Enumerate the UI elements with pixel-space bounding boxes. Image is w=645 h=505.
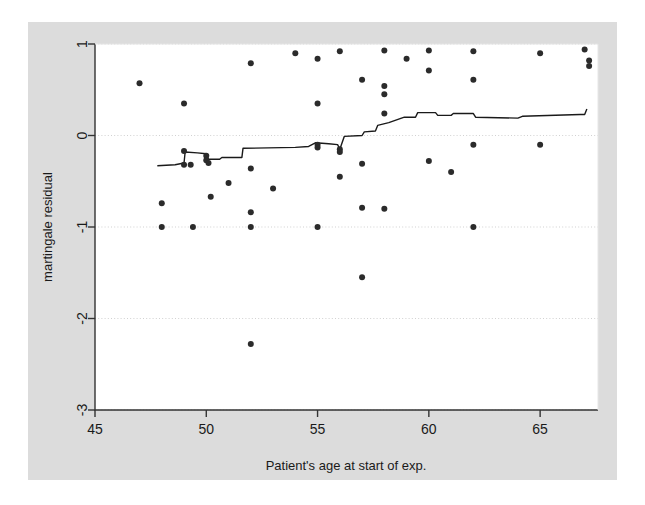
data-point: [426, 47, 432, 53]
data-point: [188, 162, 194, 168]
y-tick-label: -2: [74, 312, 90, 325]
data-point: [448, 169, 454, 175]
data-point: [248, 224, 254, 230]
x-tick-label: 45: [87, 421, 103, 437]
x-tick-label: 60: [421, 421, 437, 437]
data-point: [181, 162, 187, 168]
data-point: [337, 48, 343, 54]
data-point: [159, 224, 165, 230]
data-point: [381, 206, 387, 212]
data-point: [315, 144, 321, 150]
data-point: [470, 48, 476, 54]
data-point: [248, 209, 254, 215]
data-point: [315, 100, 321, 106]
data-point: [381, 83, 387, 89]
data-point: [582, 46, 588, 52]
y-tick-label: -1: [74, 221, 90, 234]
scatter-plot: 10-1-2-3 4550556065 Patient's age at sta…: [28, 22, 617, 480]
data-point: [586, 57, 592, 63]
data-point: [359, 77, 365, 83]
data-point: [537, 50, 543, 56]
data-point: [426, 68, 432, 74]
data-point: [181, 100, 187, 106]
data-point: [381, 47, 387, 53]
data-point: [359, 205, 365, 211]
data-point: [315, 56, 321, 62]
data-point: [315, 224, 321, 230]
y-tick-label: -3: [74, 404, 90, 417]
y-axis-label: martingale residual: [40, 172, 55, 282]
data-point: [404, 56, 410, 62]
data-point: [381, 111, 387, 117]
data-point: [586, 63, 592, 69]
y-tick-label: 0: [74, 131, 90, 139]
data-point: [359, 161, 365, 167]
data-point: [337, 149, 343, 155]
data-point: [248, 60, 254, 66]
data-point: [470, 142, 476, 148]
data-point: [248, 165, 254, 171]
data-point: [137, 80, 143, 86]
data-point: [206, 160, 212, 166]
data-point: [248, 341, 254, 347]
y-tick-label: 1: [74, 40, 90, 48]
data-point: [226, 180, 232, 186]
data-point: [426, 158, 432, 164]
x-tick-label: 65: [532, 421, 548, 437]
data-point: [208, 194, 214, 200]
data-point: [159, 200, 165, 206]
data-point: [537, 142, 543, 148]
data-point: [359, 274, 365, 280]
figure-panel: 10-1-2-3 4550556065 Patient's age at sta…: [28, 22, 617, 480]
data-point: [270, 186, 276, 192]
data-point: [470, 77, 476, 83]
data-point: [381, 91, 387, 97]
plot-area-background: [95, 44, 598, 410]
data-point: [292, 50, 298, 56]
data-point: [337, 174, 343, 180]
x-tick-label: 50: [198, 421, 214, 437]
data-point: [181, 148, 187, 154]
data-point: [190, 224, 196, 230]
x-tick-label: 55: [310, 421, 326, 437]
x-axis-label: Patient's age at start of exp.: [266, 458, 427, 473]
data-point: [470, 224, 476, 230]
